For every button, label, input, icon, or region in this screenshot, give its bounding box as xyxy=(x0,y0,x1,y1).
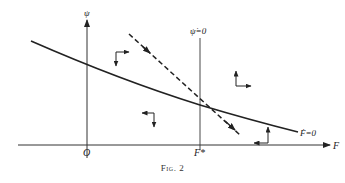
f-star-label: F* xyxy=(193,147,205,158)
phase-diagram: ψ ψ̇=0 Ḟ=0 F O F* xyxy=(0,0,345,183)
origin-label: O xyxy=(83,147,90,158)
phase-arrow-lower-left xyxy=(142,113,154,127)
phase-arrow-upper-left xyxy=(116,52,129,66)
saddle-arrow-lower xyxy=(225,121,235,130)
figure-caption: Fig. 2 xyxy=(0,163,345,173)
saddle-arrow-upper xyxy=(143,47,150,53)
f-axis-label: F xyxy=(332,140,340,151)
f-dot-zero-label: Ḟ=0 xyxy=(299,128,317,138)
f-dot-zero-curve xyxy=(31,41,298,132)
phase-arrow-lower-right xyxy=(254,127,268,143)
phase-arrow-upper-right xyxy=(236,71,251,86)
psi-dot-zero-label: ψ̇=0 xyxy=(190,26,207,36)
psi-axis-label: ψ xyxy=(84,8,90,18)
